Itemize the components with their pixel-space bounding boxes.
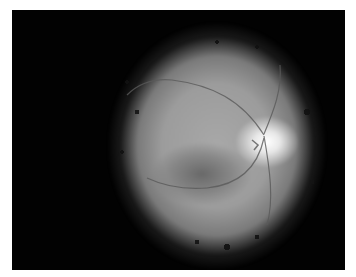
superior-arcade-vessel xyxy=(127,80,264,135)
inferior-nasal-vessel xyxy=(264,136,271,225)
disc-vessel xyxy=(252,140,258,150)
fundus-image-frame xyxy=(12,10,345,270)
inferior-arcade-vessel xyxy=(147,138,264,188)
retinal-vessels xyxy=(12,10,345,270)
superior-nasal-vessel xyxy=(264,65,280,134)
